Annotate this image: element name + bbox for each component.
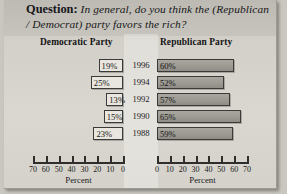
question-heading: Question: In general, do you think the (… [26,2,274,31]
bar-value-democratic: 25% [94,78,110,88]
bar-cell-republican: 52% [157,76,224,89]
axis-tick [84,156,86,164]
bar-republican: 60% [157,59,234,72]
bar-value-republican: 59% [160,129,176,139]
table-row: 15%199065% [0,108,287,125]
bar-democratic: 13% [106,93,123,106]
bar-republican: 59% [157,127,233,140]
axis-tick [196,156,198,164]
axis-tick-label: 70 [240,165,254,174]
bar-value-democratic: 19% [102,61,118,71]
bar-rows: 19%199660%25%199452%13%199257%15%199065%… [0,57,287,142]
axis-caption: Percent [157,175,248,185]
axis-republican: 010203040506070 Percent [157,154,248,192]
bar-republican: 57% [157,93,230,106]
bar-value-republican: 57% [160,95,176,105]
bar-value-republican: 65% [160,112,176,122]
axis-tick [97,156,99,164]
table-row: 23%198859% [0,125,287,142]
axis-tick [110,156,112,164]
axis-democratic: 706050403020100 Percent [33,154,124,192]
bar-cell-democratic: 15% [104,110,123,123]
bar-cell-democratic: 23% [93,127,123,140]
bar-cell-republican: 57% [157,93,230,106]
year-label: 1990 [127,111,155,121]
question-label: Question [26,2,74,16]
bar-cell-democratic: 13% [106,93,123,106]
bar-value-democratic: 15% [107,112,123,122]
axis-tick [234,156,236,164]
axis-tick [33,156,35,164]
bar-republican: 52% [157,76,224,89]
axis-tick-label: 0 [116,165,130,174]
year-label: 1988 [127,128,155,138]
bar-cell-republican: 65% [157,110,241,123]
bar-value-democratic: 13% [109,95,125,105]
axis-tick [123,156,125,164]
axis-tick [46,156,48,164]
axis-caption: Percent [33,175,124,185]
axis-tick [208,156,210,164]
panel-title-republican: Republican Party [160,37,232,47]
year-label: 1992 [127,94,155,104]
axis-tick [72,156,74,164]
year-label: 1994 [127,77,155,87]
axis-tick [221,156,223,164]
bar-cell-republican: 59% [157,127,233,140]
year-label: 1996 [127,60,155,70]
bar-democratic: 25% [91,76,123,89]
table-row: 19%199660% [0,57,287,74]
question-separator: : [74,2,78,16]
table-row: 13%199257% [0,91,287,108]
bar-democratic: 23% [93,127,123,140]
bar-value-democratic: 23% [96,129,112,139]
axis-tick [157,156,159,164]
bar-cell-republican: 60% [157,59,234,72]
bar-cell-democratic: 19% [99,59,123,72]
bar-republican: 65% [157,110,241,123]
bar-cell-democratic: 25% [91,76,123,89]
bar-value-republican: 60% [160,61,176,71]
figure-card: Question: In general, do you think the (… [0,0,287,194]
panel-title-democratic: Democratic Party [40,37,113,47]
bar-value-republican: 52% [160,78,176,88]
axis-tick [183,156,185,164]
bar-democratic: 15% [104,110,123,123]
bar-democratic: 19% [99,59,123,72]
axis-tick [170,156,172,164]
table-row: 25%199452% [0,74,287,91]
axis-tick [59,156,61,164]
axis-tick [247,156,249,164]
